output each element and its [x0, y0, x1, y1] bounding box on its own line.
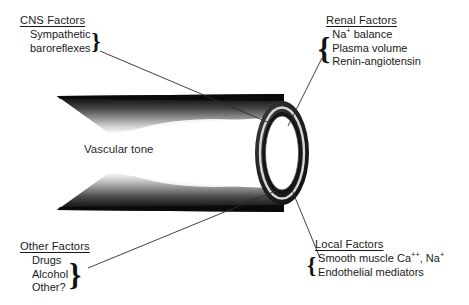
label-group-renal: Renal Factors { Na+ balance Plasma volum…	[318, 14, 421, 69]
label-group-local: Local Factors { Smooth muscle Ca++, Na+ …	[307, 238, 444, 279]
group-items-cns: Sympathetic baroreflexes }	[30, 28, 101, 55]
group-items-renal: { Na+ balance Plasma volume Renin-angiot…	[318, 28, 421, 68]
list-item: Renin-angiotensin	[332, 55, 421, 68]
group-title-cns: CNS Factors	[20, 14, 101, 27]
label-group-cns: CNS Factors Sympathetic baroreflexes }	[18, 14, 101, 55]
list-item: Drugs	[32, 254, 68, 267]
list-item: baroreflexes	[30, 42, 91, 55]
group-title-renal: Renal Factors	[326, 14, 421, 27]
label-group-other: Other Factors Drugs Alcohol Other? }	[18, 240, 90, 295]
list-item: Plasma volume	[332, 42, 421, 55]
list-item: Sympathetic	[30, 28, 91, 41]
vessel-end-ring	[255, 101, 309, 205]
group-title-local: Local Factors	[315, 238, 444, 251]
list-item: Other?	[32, 281, 68, 294]
brace-cns: }	[92, 30, 101, 53]
list-item: Endothelial mediators	[318, 266, 444, 279]
diagram-canvas: CNS Factors Sympathetic baroreflexes } R…	[0, 0, 469, 305]
group-title-other: Other Factors	[20, 240, 90, 253]
list-item: Smooth muscle Ca++, Na+	[318, 252, 444, 265]
vascular-tone-label: Vascular tone	[84, 143, 153, 155]
list-item: Alcohol	[32, 268, 68, 281]
list-item: Na+ balance	[332, 28, 421, 41]
brace-other: }	[69, 259, 81, 290]
group-items-other: Drugs Alcohol Other? }	[32, 254, 90, 294]
group-items-local: { Smooth muscle Ca++, Na+ Endothelial me…	[307, 252, 444, 279]
leader-line-renal	[288, 58, 322, 126]
brace-renal: {	[318, 33, 330, 64]
brace-local: {	[307, 254, 316, 277]
